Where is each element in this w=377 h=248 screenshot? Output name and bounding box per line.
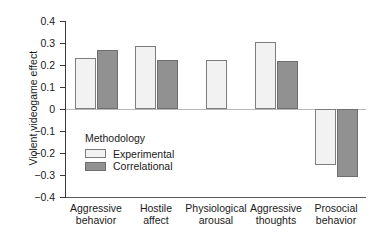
bar-experimental-physiological-arousal [206, 60, 227, 110]
bar-experimental-hostile-affect [135, 46, 156, 109]
y-tick-label: 0.2 [11, 60, 55, 71]
bar-experimental-aggressive-thoughts [255, 42, 276, 109]
legend-swatch-icon [85, 149, 106, 158]
legend-swatch-icon [85, 162, 106, 171]
legend-item: Correlational [85, 161, 174, 172]
bar-correlational-aggressive-behavior [97, 50, 118, 109]
bar-experimental-prosocial-behavior [315, 109, 336, 165]
bar-correlational-aggressive-thoughts [277, 61, 298, 109]
x-axis-line [66, 197, 366, 198]
legend-title: Methodology [85, 133, 174, 144]
legend: Methodology ExperimentalCorrelational [85, 133, 174, 172]
x-category-label: Prosocialbehavior [298, 203, 374, 226]
y-tick-label: 0.1 [11, 82, 55, 93]
y-tick-label: −0.3 [11, 170, 55, 181]
violent-videogame-effect-chart: Violent videogame effect 0.40.30.20.10−0… [0, 0, 377, 248]
y-tick-mark [60, 197, 66, 198]
bar-correlational-hostile-affect [157, 60, 178, 110]
bar-experimental-aggressive-behavior [75, 58, 96, 109]
x-category-label-line: behavior [298, 215, 374, 227]
y-tick-label: 0.3 [11, 38, 55, 49]
legend-item: Experimental [85, 149, 174, 160]
y-tick-label: −0.1 [11, 126, 55, 137]
x-category-label-line: Prosocial [298, 203, 374, 215]
y-tick-label: 0 [11, 104, 55, 115]
y-tick-label: 0.4 [11, 16, 55, 27]
bar-correlational-prosocial-behavior [337, 109, 358, 177]
legend-item-label: Correlational [113, 161, 173, 172]
y-tick-label: −0.2 [11, 148, 55, 159]
legend-item-label: Experimental [113, 149, 174, 160]
legend-items: ExperimentalCorrelational [85, 149, 174, 172]
y-tick-label: −0.4 [11, 192, 55, 203]
